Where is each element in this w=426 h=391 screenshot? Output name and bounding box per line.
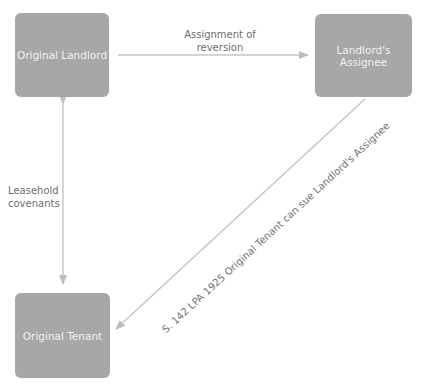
- assignment-label-line2: reversion: [160, 41, 280, 54]
- node-original-landlord: Original Landlord: [15, 13, 109, 97]
- s142-arrow: [116, 99, 365, 329]
- assignment-label-line1: Assignment of: [160, 28, 280, 41]
- node-landlords-assignee: Landlord's Assignee: [315, 14, 412, 97]
- covenants-label-line1: Leasehold: [8, 184, 58, 197]
- node-label: Original Tenant: [23, 330, 102, 342]
- covenants-label: Leasehold covenants: [8, 184, 58, 210]
- assignment-label: Assignment of reversion: [160, 28, 280, 54]
- node-original-tenant: Original Tenant: [15, 293, 110, 378]
- node-label: Original Landlord: [17, 49, 107, 61]
- covenants-label-line2: covenants: [8, 197, 58, 210]
- node-label: Landlord's Assignee: [315, 44, 412, 68]
